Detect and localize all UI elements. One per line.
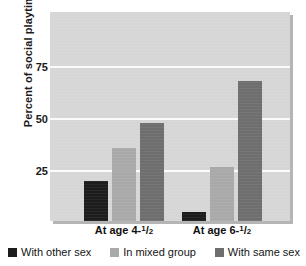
legend-swatch-icon-with-other-sex <box>8 248 17 257</box>
x-label-group-2-numerator: 1 <box>239 224 243 233</box>
bar-g2-with-same-sex <box>238 81 262 221</box>
x-label-group-1-prefix: At age 4- <box>95 224 141 236</box>
bar-g1-in-mixed-group <box>112 148 136 221</box>
bar-g1-with-same-sex <box>140 123 164 221</box>
x-label-group-2-denominator: 2 <box>247 227 251 236</box>
legend-swatch-icon-in-mixed-group <box>110 248 119 257</box>
plot-area <box>50 12 290 221</box>
gridline-75 <box>50 66 290 68</box>
x-axis-tick-labels: At age 4-1/2 At age 6-1/2 <box>50 224 290 242</box>
legend-label-in-mixed-group: In mixed group <box>123 246 196 258</box>
y-tick-50: 50 <box>22 113 48 125</box>
legend-item-with-same-sex: With same sex <box>215 246 300 258</box>
x-label-group-2-fraction: 1/2 <box>239 224 251 236</box>
y-axis-tick-labels: 75 50 25 <box>20 0 48 266</box>
legend-swatch-icon-with-same-sex <box>215 248 224 257</box>
bar-g2-with-other-sex <box>182 212 206 221</box>
chart-legend: With other sex In mixed group With same … <box>8 243 300 261</box>
y-tick-75: 75 <box>22 61 48 73</box>
x-label-group-1-fraction: 1/2 <box>141 224 153 236</box>
x-label-group-2-prefix: At age 6- <box>193 224 239 236</box>
bar-g1-with-other-sex <box>84 181 108 221</box>
x-label-group-1-numerator: 1 <box>141 224 145 233</box>
legend-label-with-same-sex: With same sex <box>228 246 300 258</box>
bar-g2-in-mixed-group <box>210 167 234 221</box>
legend-item-in-mixed-group: In mixed group <box>110 246 196 258</box>
x-label-group-1-denominator: 2 <box>149 227 153 236</box>
y-tick-25: 25 <box>22 165 48 177</box>
x-label-group-2: At age 6-1/2 <box>162 224 282 236</box>
legend-label-with-other-sex: With other sex <box>21 246 91 258</box>
bar-chart-figure: Percent of social playtime 75 50 25 At a… <box>0 0 306 266</box>
legend-item-with-other-sex: With other sex <box>8 246 91 258</box>
